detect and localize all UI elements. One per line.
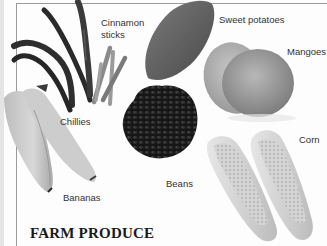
sweet-potato-image — [145, 1, 214, 80]
corn-image — [207, 130, 313, 241]
beans-image — [123, 86, 198, 159]
label-mangoes: Mangoes — [287, 46, 326, 57]
bananas-image — [4, 84, 96, 192]
label-cinnamon-line1: Cinnamon — [101, 17, 144, 28]
label-beans: Beans — [166, 178, 193, 189]
produce-artwork — [0, 0, 327, 246]
mangoes-image — [196, 35, 296, 122]
cinnamon-sticks-image — [94, 48, 125, 104]
label-sweet-potatoes: Sweet potatoes — [219, 14, 285, 25]
label-corn: Corn — [299, 134, 320, 145]
label-bananas: Bananas — [63, 192, 101, 203]
page-title: FARM PRODUCE — [30, 225, 154, 242]
label-cinnamon-line2: sticks — [101, 29, 125, 40]
farm-produce-illustration: Cinnamon sticks Sweet potatoes Mangoes C… — [0, 0, 327, 246]
label-chillies: Chillies — [60, 116, 91, 127]
